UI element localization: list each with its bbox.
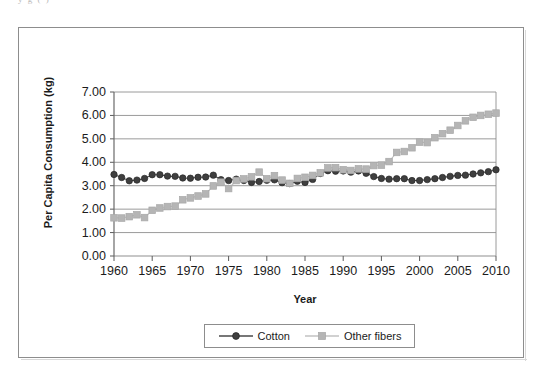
x-axis-tick-label: 1990 xyxy=(329,264,357,278)
chart-legend: Cotton Other fibers xyxy=(204,324,415,348)
series-line xyxy=(114,113,496,218)
data-point xyxy=(172,173,178,179)
data-point xyxy=(424,176,430,182)
data-point xyxy=(493,167,499,173)
data-point xyxy=(149,207,156,214)
legend-label-other-fibers: Other fibers xyxy=(344,330,401,342)
data-point xyxy=(378,175,384,181)
data-point xyxy=(111,215,118,222)
data-point xyxy=(256,169,263,176)
y-axis-tick-label: 6.00 xyxy=(82,108,106,122)
data-point xyxy=(118,174,124,180)
x-axis-tick-label: 1960 xyxy=(100,264,128,278)
legend-marker-circle-icon xyxy=(218,330,254,342)
data-point xyxy=(470,171,476,177)
data-point xyxy=(470,114,477,121)
data-point xyxy=(179,196,186,203)
data-point xyxy=(172,203,179,210)
data-point xyxy=(393,175,399,181)
data-point xyxy=(340,166,347,173)
data-point xyxy=(248,174,255,181)
y-axis-tick-label: 1.00 xyxy=(82,226,106,240)
data-point xyxy=(279,177,286,184)
data-point xyxy=(332,164,339,171)
x-axis-tick-label: 1970 xyxy=(176,264,204,278)
data-point xyxy=(202,174,208,180)
x-axis-tick-label: 2010 xyxy=(482,264,510,278)
x-axis-tick-label: 1965 xyxy=(138,264,166,278)
data-point xyxy=(409,144,416,151)
y-axis-tick-label: 7.00 xyxy=(82,85,106,99)
x-axis-tick-label: 1985 xyxy=(291,264,319,278)
y-axis-tick-label: 0.00 xyxy=(82,249,106,263)
figure-frame: Per Capita Consumption (kg) 0.001.002.00… xyxy=(18,27,524,358)
data-point xyxy=(134,211,141,218)
data-point xyxy=(432,134,439,141)
data-point xyxy=(256,178,262,184)
data-point xyxy=(462,172,468,178)
data-point xyxy=(294,175,301,182)
data-point xyxy=(355,166,362,173)
data-point xyxy=(432,175,438,181)
x-axis-tick-label: 2005 xyxy=(444,264,472,278)
data-point xyxy=(325,165,332,172)
data-point xyxy=(225,185,232,192)
legend-entry-cotton: Cotton xyxy=(218,330,290,342)
data-point xyxy=(386,176,392,182)
data-point xyxy=(218,179,225,186)
data-point xyxy=(309,172,316,179)
data-point xyxy=(233,177,240,184)
data-point xyxy=(164,203,171,210)
data-point xyxy=(439,130,446,137)
data-point xyxy=(424,139,431,146)
data-point xyxy=(210,172,216,178)
legend-label-cotton: Cotton xyxy=(258,330,290,342)
data-point xyxy=(416,177,422,183)
data-point xyxy=(447,173,453,179)
data-point xyxy=(157,205,164,212)
data-point xyxy=(210,183,217,190)
chart-page: y g ( ) Per Capita Consumption (kg) 0.00… xyxy=(0,0,542,377)
data-point xyxy=(371,173,377,179)
data-point xyxy=(225,177,231,183)
data-point xyxy=(462,118,469,125)
legend-marker-square-icon xyxy=(304,330,340,342)
data-point xyxy=(447,127,454,134)
data-point xyxy=(493,110,500,117)
data-point xyxy=(241,176,248,183)
data-point xyxy=(134,177,140,183)
data-point xyxy=(485,111,492,118)
data-point xyxy=(286,180,293,187)
data-point xyxy=(302,174,309,181)
legend-entry-other-fibers: Other fibers xyxy=(304,330,401,342)
data-point xyxy=(149,172,155,178)
data-point xyxy=(187,195,194,202)
data-point xyxy=(141,175,147,181)
data-point xyxy=(187,175,193,181)
data-point xyxy=(416,139,423,146)
y-axis-tick-label: 2.00 xyxy=(82,202,106,216)
data-point xyxy=(370,162,377,169)
data-point xyxy=(485,168,491,174)
data-point xyxy=(195,174,201,180)
x-axis-title: Year xyxy=(114,293,496,305)
data-point xyxy=(439,174,445,180)
data-point xyxy=(477,112,484,119)
x-axis-tick-label: 1975 xyxy=(215,264,243,278)
data-point xyxy=(126,178,132,184)
plot-canvas: 0.001.002.003.004.005.006.007.0019601965… xyxy=(19,28,525,359)
y-axis-tick-label: 3.00 xyxy=(82,179,106,193)
series-other-fibers xyxy=(111,110,500,222)
clipped-text-fragment: y g ( ) xyxy=(18,0,50,4)
data-point xyxy=(455,172,461,178)
y-axis-tick-label: 5.00 xyxy=(82,132,106,146)
data-point xyxy=(180,175,186,181)
data-point xyxy=(202,191,209,198)
data-point xyxy=(126,213,133,220)
data-point xyxy=(386,158,393,165)
data-point xyxy=(271,172,278,179)
x-axis-tick-label: 2000 xyxy=(406,264,434,278)
data-point xyxy=(111,171,117,177)
data-point xyxy=(401,175,407,181)
data-point xyxy=(141,214,148,221)
